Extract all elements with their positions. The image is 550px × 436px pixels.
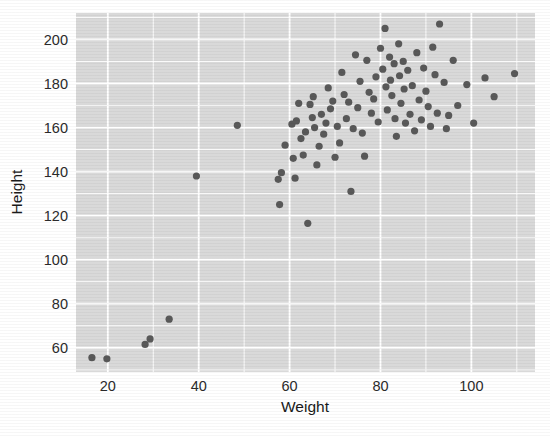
data-point — [409, 82, 416, 89]
data-point — [320, 131, 327, 138]
data-point — [309, 114, 316, 121]
data-point — [463, 81, 470, 88]
data-point — [343, 115, 350, 122]
data-point — [386, 53, 393, 60]
data-point — [491, 93, 498, 100]
x-axis-title: Weight — [281, 398, 330, 415]
data-point — [382, 83, 389, 90]
data-point — [322, 120, 329, 127]
data-point — [356, 78, 363, 85]
data-point — [293, 117, 300, 124]
data-point — [141, 341, 148, 348]
data-point — [295, 100, 302, 107]
y-tick-label: 140 — [44, 164, 68, 180]
x-tick-label: 100 — [459, 378, 483, 394]
data-point — [302, 128, 309, 135]
data-point — [306, 101, 313, 108]
data-point — [336, 139, 343, 146]
data-point — [425, 103, 432, 110]
y-tick-label: 60 — [52, 340, 68, 356]
data-point — [427, 123, 434, 130]
data-point — [368, 110, 375, 117]
data-point — [379, 66, 386, 73]
data-point — [325, 84, 332, 91]
data-point — [436, 20, 443, 27]
data-point — [372, 73, 379, 80]
data-point — [377, 45, 384, 52]
data-point — [88, 354, 95, 361]
data-point — [397, 100, 404, 107]
chart-svg: 20406080100 6080100120140160180200 Weigh… — [0, 0, 550, 436]
data-point — [443, 125, 450, 132]
data-point — [331, 154, 338, 161]
x-tick-label: 40 — [191, 378, 207, 394]
data-point — [401, 85, 408, 92]
data-point — [311, 124, 318, 131]
y-tick-label: 80 — [52, 296, 68, 312]
data-point — [388, 92, 395, 99]
data-point — [297, 135, 304, 142]
data-point — [406, 111, 413, 118]
data-point — [391, 115, 398, 122]
data-point — [384, 106, 391, 113]
data-point — [411, 127, 418, 134]
data-point — [470, 120, 477, 127]
data-point — [275, 176, 282, 183]
data-point — [429, 44, 436, 51]
data-point — [310, 93, 317, 100]
data-point — [359, 129, 366, 136]
data-point — [316, 143, 323, 150]
plot-panel — [76, 13, 535, 372]
data-point — [352, 51, 359, 58]
data-point — [281, 142, 288, 149]
y-tick-label: 180 — [44, 76, 68, 92]
scatter-plot-figure: 20406080100 6080100120140160180200 Weigh… — [0, 0, 550, 436]
data-point — [350, 125, 357, 132]
data-point — [193, 172, 200, 179]
data-point — [413, 49, 420, 56]
data-point — [387, 77, 394, 84]
data-point — [290, 155, 297, 162]
data-point — [393, 133, 400, 140]
data-point — [434, 110, 441, 117]
data-point — [146, 335, 153, 342]
data-point — [363, 57, 370, 64]
data-point — [347, 188, 354, 195]
data-point — [420, 64, 427, 71]
data-point — [395, 40, 402, 47]
x-tick-label: 80 — [372, 378, 388, 394]
data-point — [338, 69, 345, 76]
y-tick-label: 200 — [44, 32, 68, 48]
data-point — [391, 60, 398, 67]
data-point — [291, 175, 298, 182]
data-point — [327, 105, 334, 112]
data-point — [375, 118, 382, 125]
data-point — [481, 74, 488, 81]
data-point — [445, 112, 452, 119]
data-point — [354, 104, 361, 111]
data-point — [422, 88, 429, 95]
x-tick-label: 20 — [100, 378, 116, 394]
data-point — [329, 98, 336, 105]
data-point — [381, 25, 388, 32]
data-point — [304, 220, 311, 227]
data-point — [278, 169, 285, 176]
data-point — [276, 201, 283, 208]
data-point — [370, 95, 377, 102]
data-point — [318, 111, 325, 118]
data-point — [441, 79, 448, 86]
data-point — [313, 161, 320, 168]
data-point — [166, 316, 173, 323]
data-point — [361, 153, 368, 160]
data-point — [334, 123, 341, 130]
data-point — [396, 72, 403, 79]
data-point — [418, 116, 425, 123]
data-point — [400, 58, 407, 65]
data-point — [366, 89, 373, 96]
data-point — [103, 355, 110, 362]
data-point — [402, 120, 409, 127]
data-point — [431, 71, 438, 78]
data-point — [511, 70, 518, 77]
y-axis-title: Height — [8, 169, 25, 214]
data-point — [345, 99, 352, 106]
